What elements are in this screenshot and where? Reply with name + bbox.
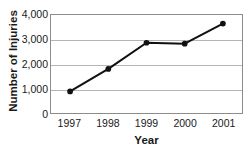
data-point-marker [105,66,111,72]
x-tick-label: 2001 [202,118,246,129]
x-tick-label: 1997 [47,118,91,129]
y-axis-tick-labels: 4,000 3,000 2,000 1,000 0 [0,0,48,153]
data-point-marker [144,40,150,46]
data-point-marker [182,41,188,47]
x-tick-label: 2000 [163,118,207,129]
x-axis-title: Year [50,134,243,146]
y-tick-label: 3,000 [2,34,48,45]
plot-area [50,14,243,114]
data-point-marker [67,89,73,95]
y-tick-label: 2,000 [2,59,48,70]
x-axis-tick-labels: 1997 1998 1999 2000 2001 [50,118,243,132]
data-line [70,24,223,92]
x-tick-label: 1999 [125,118,169,129]
data-series-layer [51,15,242,113]
y-tick-label: 4,000 [2,9,48,20]
x-tick-label: 1998 [86,118,130,129]
y-tick-label: 1,000 [2,84,48,95]
y-tick-label: 0 [2,109,48,120]
data-point-marker [220,21,226,27]
line-chart: Number of Injuries 4,000 3,000 2,000 1,0… [0,0,247,153]
